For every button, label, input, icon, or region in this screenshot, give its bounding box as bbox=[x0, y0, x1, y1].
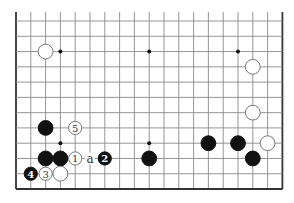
star-point bbox=[147, 141, 151, 145]
black-stone bbox=[201, 136, 216, 151]
star-point bbox=[58, 141, 62, 145]
star-point bbox=[147, 50, 151, 54]
white-stone bbox=[53, 166, 68, 181]
board-markers: a bbox=[85, 152, 95, 166]
move-number-label: 5 bbox=[72, 123, 78, 134]
white-stone bbox=[245, 105, 260, 120]
go-board-diagram: a 51243 bbox=[0, 0, 294, 203]
move-number-label: 1 bbox=[72, 153, 78, 164]
move-number-label: 3 bbox=[42, 169, 48, 180]
white-stone bbox=[38, 44, 53, 59]
black-stone bbox=[38, 121, 53, 136]
black-stone bbox=[38, 151, 53, 166]
black-stone bbox=[53, 151, 68, 166]
star-point bbox=[236, 50, 240, 54]
black-stone bbox=[245, 151, 260, 166]
move-number-label: 2 bbox=[101, 153, 108, 164]
white-stone bbox=[245, 59, 260, 74]
white-stone bbox=[260, 136, 275, 151]
star-point bbox=[58, 50, 62, 54]
black-stone bbox=[142, 151, 157, 166]
black-stone bbox=[231, 136, 246, 151]
move-number-label: 4 bbox=[27, 169, 34, 180]
point-marker-label: a bbox=[86, 152, 93, 166]
